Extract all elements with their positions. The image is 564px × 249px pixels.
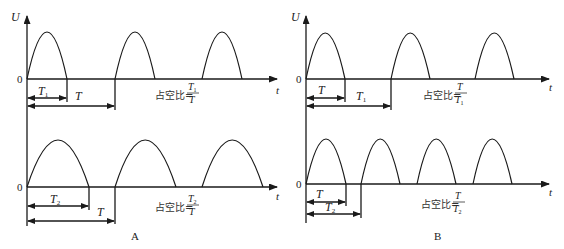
- long-interval-label: T: [75, 89, 83, 103]
- long-interval-label: T: [97, 205, 105, 219]
- x-axis-label: t: [276, 84, 280, 96]
- svg-text:T: T: [189, 206, 196, 217]
- origin-label: 0: [17, 181, 23, 193]
- pulse: [27, 140, 89, 187]
- waveform-a-top: t 0 T1 T 占空比= T1 T: [17, 32, 280, 110]
- y-axis-label: U: [291, 10, 301, 24]
- short-interval-label: T1: [38, 84, 49, 99]
- pulse: [306, 33, 345, 79]
- pulse: [475, 33, 514, 79]
- duty-cycle-formula: 占空比= T2 T: [155, 193, 199, 217]
- pwm-duty-cycle-diagram: U t 0 T1 T 占空比= T1 T t 0: [0, 0, 564, 249]
- panel-label: A: [131, 230, 139, 242]
- long-interval-label: T1: [356, 89, 367, 104]
- svg-text:T: T: [455, 190, 462, 201]
- pulse: [417, 139, 456, 184]
- short-interval-label: T2: [50, 192, 61, 207]
- pulse: [473, 139, 512, 184]
- pulse: [115, 140, 176, 187]
- origin-label: 0: [296, 178, 302, 190]
- duty-cycle-formula: 占空比= T1 T: [155, 81, 199, 105]
- pulse: [391, 33, 430, 79]
- pulse: [361, 139, 400, 184]
- svg-text:T1: T1: [455, 94, 464, 106]
- svg-text:T2: T2: [188, 193, 197, 205]
- pulse: [202, 140, 263, 187]
- pulse: [27, 32, 67, 79]
- panel-b: U t 0 T T1 占空比= T T1 t 0: [291, 10, 553, 242]
- origin-label: 0: [17, 73, 23, 85]
- duty-cycle-formula: 占空比= T T1: [423, 81, 467, 106]
- pulse: [202, 32, 242, 79]
- panel-a: U t 0 T1 T 占空比= T1 T t 0: [11, 10, 280, 242]
- panel-label: B: [434, 230, 441, 242]
- svg-text:T: T: [189, 94, 196, 105]
- x-axis-label: t: [549, 81, 553, 93]
- svg-text:T1: T1: [188, 81, 197, 93]
- waveform-b-top: t 0 T T1 占空比= T T1: [296, 33, 553, 110]
- x-axis-label: t: [276, 190, 280, 202]
- short-interval-label: T: [316, 187, 324, 201]
- origin-label: 0: [296, 73, 302, 85]
- waveform-b-bottom: t 0 T T2 占空比= T T2: [296, 139, 553, 218]
- pulse: [115, 32, 155, 79]
- svg-text:T: T: [457, 81, 464, 92]
- short-interval-label: T: [318, 83, 326, 97]
- svg-text:T2: T2: [453, 203, 462, 215]
- waveform-a-bottom: t 0 T2 T 占空比= T2 T: [17, 140, 280, 224]
- pulse: [306, 139, 346, 184]
- y-axis-label: U: [11, 10, 21, 24]
- x-axis-label: t: [549, 186, 553, 198]
- duty-cycle-formula: 占空比= T T2: [421, 190, 465, 215]
